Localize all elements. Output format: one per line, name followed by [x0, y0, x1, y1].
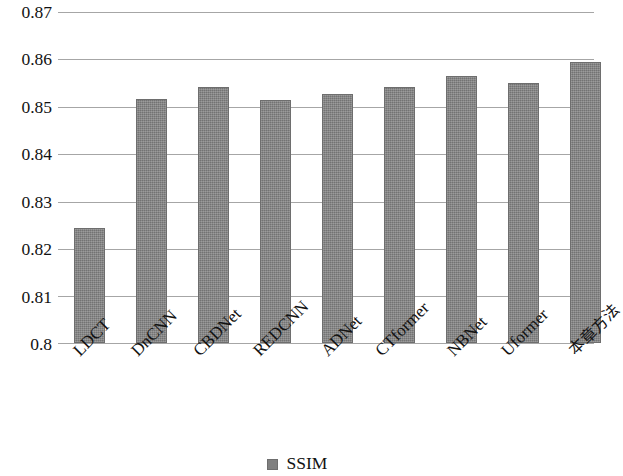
- bar-redcnn: [260, 100, 291, 343]
- chart-legend: SSIM: [0, 452, 594, 476]
- bar-cbdnet: [198, 87, 229, 343]
- y-axis-tick-0: 0.87: [0, 4, 52, 22]
- legend-swatch-icon: [267, 459, 278, 470]
- y-axis-tick-4: 0.83: [0, 194, 52, 212]
- bar-dncnn: [136, 99, 167, 343]
- bar-ctformer: [384, 87, 415, 343]
- bar-adnet: [322, 94, 353, 343]
- bar-nbnet: [446, 76, 477, 343]
- y-axis-tick-6: 0.81: [0, 289, 52, 307]
- y-axis-tick-1: 0.86: [0, 51, 52, 69]
- y-axis-tick-3: 0.84: [0, 146, 52, 164]
- x-axis-labels: LDCT DnCNN CBDNet REDCNN ADNet CTformer …: [58, 343, 594, 453]
- y-axis-tick-2: 0.85: [0, 99, 52, 117]
- bar-uformer: [508, 83, 539, 344]
- y-axis-labels: 0.87 0.86 0.85 0.84 0.83 0.82 0.81 0.8: [0, 0, 52, 476]
- bar-series-ssim: [58, 12, 594, 343]
- legend-label-ssim: SSIM: [287, 455, 328, 473]
- bar-benzhang-fangfa: [570, 62, 601, 343]
- y-axis-tick-7: 0.8: [0, 336, 52, 354]
- y-axis-tick-5: 0.82: [0, 241, 52, 259]
